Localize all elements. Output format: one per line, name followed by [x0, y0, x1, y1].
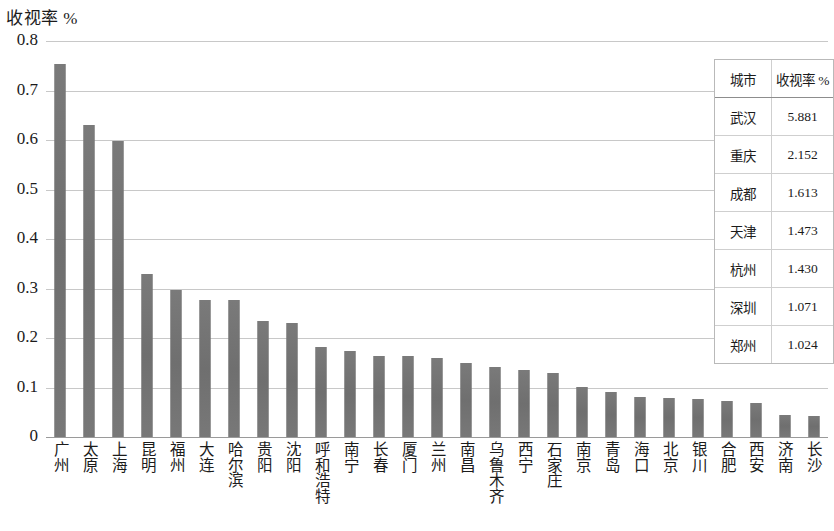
table-cell-rating: 1.613 [772, 174, 833, 212]
x-axis-labels: 广州太原上海昆明福州大连哈尔滨贵阳沈阳呼和浩特南宁长春厦门兰州南昌乌鲁木齐西宁石… [46, 441, 828, 531]
bar-slot [278, 41, 307, 437]
bar [287, 323, 298, 437]
y-tick-label: 0 [0, 426, 38, 446]
bar [431, 358, 442, 437]
bar-slot [191, 41, 220, 437]
bar [460, 363, 471, 437]
x-tick-label: 长沙 [806, 441, 822, 472]
bar-slot [423, 41, 452, 437]
bar-slot [509, 41, 538, 437]
bar-slot [249, 41, 278, 437]
bar [258, 321, 269, 437]
table-cell-rating: 1.473 [772, 212, 833, 250]
x-tick-label: 大连 [197, 441, 213, 472]
bar [634, 397, 645, 437]
bar-slot [75, 41, 104, 437]
table-cell-rating: 1.024 [772, 326, 833, 364]
table-cell-rating: 2.152 [772, 136, 833, 174]
bar [171, 290, 182, 437]
bar [374, 356, 385, 437]
x-tick-label: 北京 [661, 441, 677, 472]
x-tick-label: 银川 [690, 441, 706, 472]
bar [403, 356, 414, 437]
rating-summary-table: 城市 收视率 % 武汉5.881重庆2.152成都1.613天津1.473杭州1… [714, 59, 834, 364]
bar [200, 300, 211, 437]
bar-slot [567, 41, 596, 437]
table-cell-rating: 1.071 [772, 288, 833, 326]
x-tick-label: 哈尔滨 [226, 441, 242, 488]
table-cell-city: 杭州 [715, 250, 772, 288]
bar [779, 415, 790, 437]
x-tick-label: 南宁 [342, 441, 358, 472]
table-cell-city: 成都 [715, 174, 772, 212]
bar-slot [307, 41, 336, 437]
bar-slot [596, 41, 625, 437]
x-tick-label: 南昌 [458, 441, 474, 472]
bar [345, 351, 356, 437]
bar [808, 416, 819, 437]
table-cell-city: 重庆 [715, 136, 772, 174]
bar [576, 387, 587, 437]
x-tick-label: 沈阳 [284, 441, 300, 472]
x-tick-label: 乌鲁木齐 [487, 441, 503, 503]
bar [113, 141, 124, 437]
x-tick-label: 广州 [53, 441, 69, 472]
bar [518, 370, 529, 437]
bar-slot [220, 41, 249, 437]
table-row: 重庆2.152 [715, 136, 833, 174]
bar [229, 300, 240, 437]
bar [84, 125, 95, 437]
bar-slot [365, 41, 394, 437]
bar [142, 274, 153, 437]
bar-slot [336, 41, 365, 437]
table-row: 郑州1.024 [715, 326, 833, 364]
bar-slot [46, 41, 75, 437]
y-tick-label: 0.7 [0, 80, 38, 100]
x-tick-label: 呼和浩特 [313, 441, 329, 503]
x-tick-label: 厦门 [400, 441, 416, 472]
bar-slot [394, 41, 423, 437]
bar-slot [451, 41, 480, 437]
y-tick-label: 0.5 [0, 179, 38, 199]
x-tick-label: 济南 [777, 441, 793, 472]
bar-slot [104, 41, 133, 437]
bar [55, 64, 66, 437]
x-tick-label: 西安 [748, 441, 764, 472]
bar-slot [133, 41, 162, 437]
bar-slot [625, 41, 654, 437]
y-tick-label: 0.3 [0, 278, 38, 298]
x-tick-label: 合肥 [719, 441, 735, 472]
x-tick-label: 海口 [632, 441, 648, 472]
chart-title: 收视率 % [6, 4, 78, 29]
y-tick-label: 0.4 [0, 228, 38, 248]
table-cell-city: 天津 [715, 212, 772, 250]
rating-bar-chart: 收视率 % 0.80.70.60.50.40.30.20.10 广州太原上海昆明… [0, 0, 834, 531]
bar [663, 398, 674, 437]
x-tick-label: 贵阳 [255, 441, 271, 472]
x-tick-label: 西宁 [516, 441, 532, 472]
table-row: 成都1.613 [715, 174, 833, 212]
bar-slot [162, 41, 191, 437]
bar-slot [654, 41, 683, 437]
x-tick-label: 上海 [111, 441, 127, 472]
table-cell-rating: 1.430 [772, 250, 833, 288]
table-cell-city: 郑州 [715, 326, 772, 364]
bar [750, 403, 761, 437]
table-header-row: 城市 收视率 % [715, 60, 833, 98]
bars-layer [46, 41, 828, 437]
x-tick-label: 兰州 [429, 441, 445, 472]
x-tick-label: 福州 [168, 441, 184, 472]
bar-slot [480, 41, 509, 437]
table-row: 武汉5.881 [715, 98, 833, 136]
y-tick-label: 0.2 [0, 327, 38, 347]
y-tick-label: 0.8 [0, 30, 38, 50]
y-tick-label: 0.1 [0, 377, 38, 397]
table-row: 天津1.473 [715, 212, 833, 250]
x-tick-label: 青岛 [603, 441, 619, 472]
bar [721, 401, 732, 437]
x-tick-label: 太原 [82, 441, 98, 472]
plot-area: 0.80.70.60.50.40.30.20.10 [46, 41, 828, 437]
column-header-rating: 收视率 % [772, 60, 833, 98]
bar-slot [538, 41, 567, 437]
table-row: 杭州1.430 [715, 250, 833, 288]
